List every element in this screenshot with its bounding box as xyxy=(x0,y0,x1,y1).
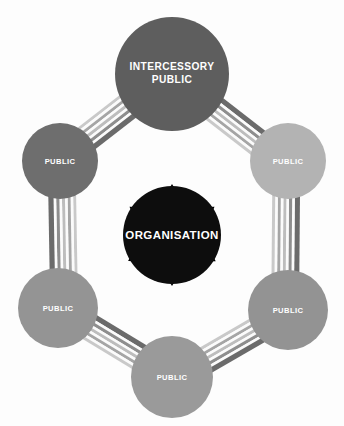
node-public-upper-right[interactable]: PUBLIC xyxy=(250,123,326,199)
node-public-bottom-label: PUBLIC xyxy=(157,373,188,382)
node-public-upper-left-label: PUBLIC xyxy=(45,157,76,166)
node-intercessory-public[interactable]: INTERCESSORY PUBLIC xyxy=(115,17,229,131)
node-public-lower-left[interactable]: PUBLIC xyxy=(18,268,98,348)
node-public-lower-left-label: PUBLIC xyxy=(43,304,74,313)
node-public-lower-right[interactable]: PUBLIC xyxy=(248,270,328,350)
node-intercessory-public-label-line2: PUBLIC xyxy=(152,74,193,85)
stakeholder-diagram: INTERCESSORY PUBLIC PUBLIC PUBLIC PUBLIC… xyxy=(0,0,344,426)
node-public-lower-right-label: PUBLIC xyxy=(273,306,304,315)
node-organisation-label: ORGANISATION xyxy=(125,229,218,241)
node-public-upper-right-label: PUBLIC xyxy=(273,157,304,166)
node-organisation[interactable]: ORGANISATION xyxy=(123,186,221,284)
node-public-bottom[interactable]: PUBLIC xyxy=(131,336,213,418)
node-intercessory-public-label-line1: INTERCESSORY xyxy=(130,61,215,72)
node-public-upper-left[interactable]: PUBLIC xyxy=(22,123,98,199)
diagram-canvas: INTERCESSORY PUBLIC PUBLIC PUBLIC PUBLIC… xyxy=(0,0,344,426)
